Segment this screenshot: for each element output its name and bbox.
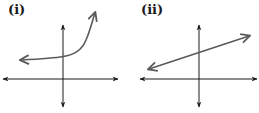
panel-i-axes	[3, 25, 118, 107]
graphs-figure	[0, 0, 259, 113]
panel-i-exponential-curve	[21, 13, 95, 60]
